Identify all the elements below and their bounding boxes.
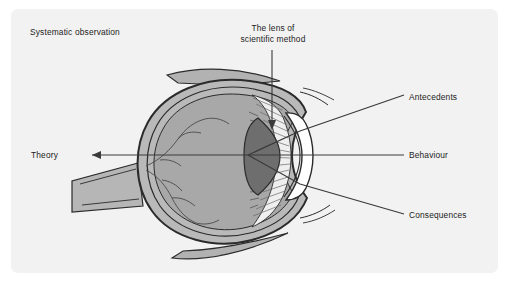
label-theory: Theory bbox=[31, 150, 58, 161]
label-antecedents: Antecedents bbox=[409, 92, 457, 103]
label-lens-line1: The lens of bbox=[251, 23, 294, 33]
label-lens-line2: scientific method bbox=[241, 34, 306, 44]
label-behaviour: Behaviour bbox=[409, 150, 448, 161]
label-lens-of-scientific-method: The lens of scientific method bbox=[227, 23, 319, 44]
optic-nerve bbox=[72, 163, 143, 212]
label-systematic-observation: Systematic observation bbox=[30, 27, 120, 38]
figure-container: Systematic observation The lens of scien… bbox=[0, 0, 512, 293]
label-consequences: Consequences bbox=[409, 210, 467, 221]
